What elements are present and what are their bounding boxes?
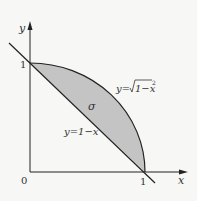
origin-label: 0 xyxy=(21,175,27,186)
svg-text:y=: y= xyxy=(115,83,130,94)
y-axis-label: y xyxy=(18,22,26,35)
circle-label: y= 1−x 2 xyxy=(115,79,156,94)
region-label: σ xyxy=(88,100,96,113)
diagram-canvas: y x 0 1 1 σ y=1−x y= 1−x 2 xyxy=(0,0,197,201)
x-axis-label: x xyxy=(178,174,185,187)
y-tick-label: 1 xyxy=(20,59,26,70)
y-axis-arrow-icon xyxy=(28,21,33,30)
x-tick-label: 1 xyxy=(140,176,146,187)
diagram-svg: y x 0 1 1 σ y=1−x y= 1−x 2 xyxy=(0,0,197,201)
curve-line xyxy=(9,43,155,183)
svg-text:2: 2 xyxy=(152,79,156,86)
line-label: y=1−x xyxy=(63,126,99,137)
